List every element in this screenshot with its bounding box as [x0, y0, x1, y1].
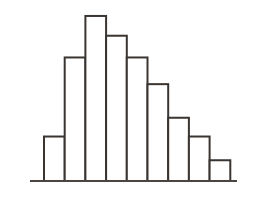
- histogram-bar: [127, 57, 148, 181]
- histogram-bar: [106, 36, 127, 181]
- histogram-bar: [168, 118, 189, 181]
- histogram-bar: [44, 137, 65, 181]
- histogram-bar: [189, 137, 210, 181]
- bars-group: [44, 16, 230, 181]
- histogram-bar: [65, 57, 86, 181]
- plot-area: [0, 0, 264, 205]
- histogram-bar: [210, 160, 231, 181]
- histogram-bar: [148, 84, 169, 181]
- histogram-bar: [85, 16, 106, 181]
- histogram-chart: [0, 0, 264, 205]
- histogram-figure: [0, 0, 264, 205]
